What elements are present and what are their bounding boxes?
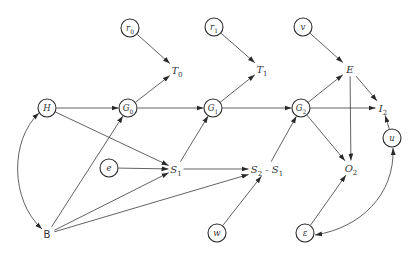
edge-B-to-S1 [54,173,168,231]
path-diagram: r0r1vT0T1EHG0G1G2I2ueS1S2 - S1O2Bwε [0,0,414,255]
edges-layer [18,33,393,235]
node-E: E [345,64,354,75]
edge-G2-to-E [308,75,342,102]
node-label: u [389,133,394,143]
node-label: S1 [170,164,181,178]
node-O2: O2 [345,163,358,177]
edge-e-to-S1 [119,168,169,169]
node-label: E [345,64,354,75]
node-I2: I2 [378,103,387,117]
node-T1: T1 [256,64,267,78]
edge-H-to-B [18,113,42,229]
edge-r0-to-T0 [137,34,170,63]
node-H: H [38,99,56,117]
edge-eps-to-u [315,148,393,235]
edge-G1-to-T1 [220,75,254,102]
edge-E-to-I2 [356,76,377,101]
edge-H-to-S1 [56,112,169,165]
node-e: e [100,159,118,177]
node-B: B [44,229,51,240]
edge-eps-to-O2 [311,175,346,225]
node-G2: G2 [292,99,310,117]
node-label: O2 [345,163,358,177]
node-label: B [44,229,51,240]
node-u: u [383,129,401,147]
node-S2S1: S2 - S1 [251,164,283,178]
node-T0: T0 [171,65,182,79]
nodes-layer: r0r1vT0T1EHG0G1G2I2ueS1S2 - S1O2Bwε [38,18,401,242]
edge-S1-to-G1 [180,116,208,162]
node-label: ε [303,228,308,238]
edge-r1-to-T1 [221,33,255,63]
edge-w-to-S2S1 [223,176,262,225]
node-label: I2 [378,103,387,117]
node-r0: r0 [121,19,139,37]
node-label: e [106,163,111,173]
node-G0: G0 [119,99,137,117]
edge-S2S1-to-G2 [271,116,296,161]
node-G1: G1 [204,99,222,117]
node-r1: r1 [205,18,223,36]
node-label: T0 [171,65,182,79]
edge-v-to-E [310,33,343,62]
node-w: w [208,224,226,242]
node-label: H [42,103,51,113]
edge-E-to-O2 [350,77,351,161]
node-v: v [294,18,312,36]
edge-B-to-S2S1 [54,174,248,231]
edge-G2-to-O2 [307,115,345,161]
edge-u-to-I2 [385,115,389,128]
node-label: S2 - S1 [251,164,283,178]
node-eps: ε [296,224,314,242]
edge-G0-to-T0 [136,76,170,103]
node-label: T1 [256,64,267,78]
node-label: v [301,22,306,32]
node-label: w [213,228,221,238]
node-S1: S1 [170,164,181,178]
